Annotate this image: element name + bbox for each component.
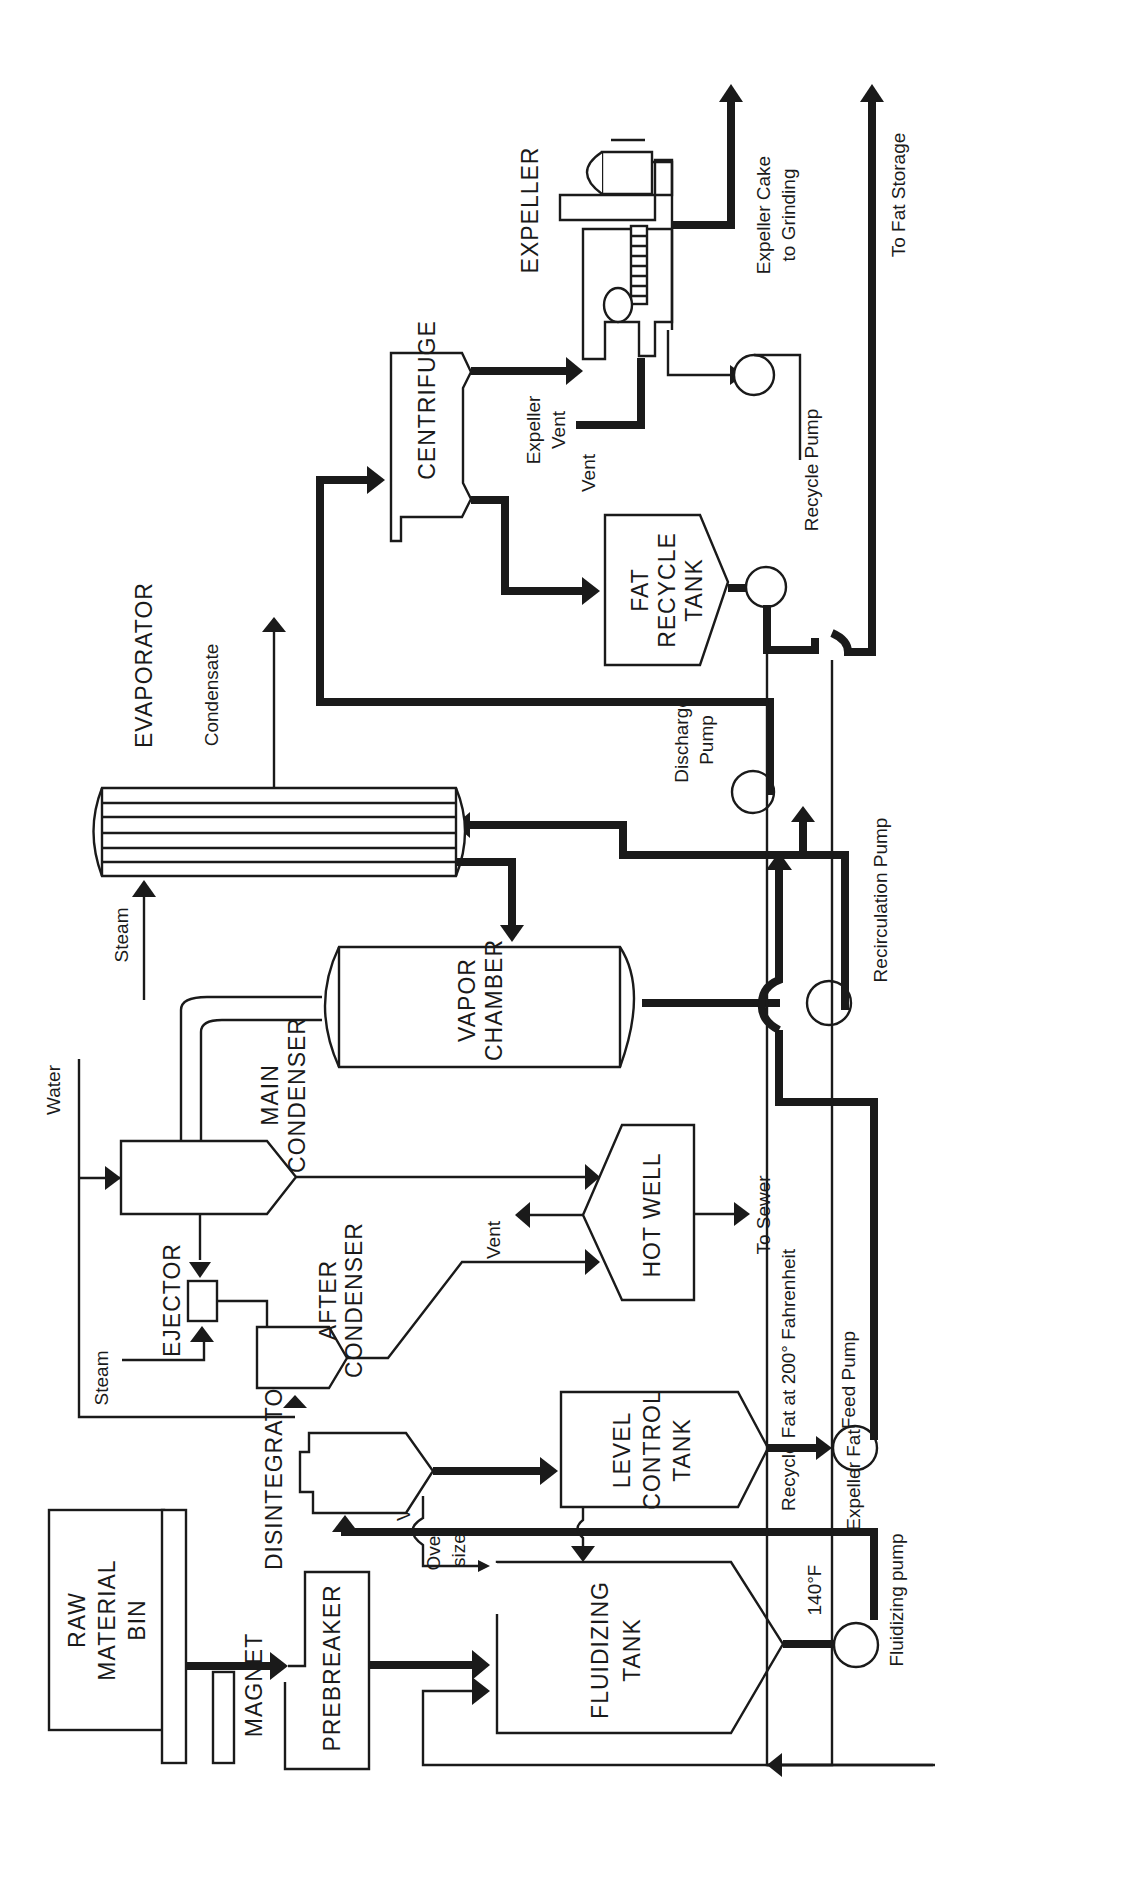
arrow-icon: [190, 1326, 214, 1342]
disintegrator: [300, 1433, 433, 1513]
fluidizing-tank-label-2: TANK: [619, 1618, 645, 1682]
discharge-pump-label-2: Pump: [696, 715, 717, 765]
arrow-icon: [105, 1166, 121, 1190]
expeller-vent-label-2: Vent: [548, 410, 569, 449]
ejector-label: EJECTOR: [159, 1243, 185, 1357]
expeller-fat-pump-icon: [734, 355, 774, 395]
magnet: MAGNET: [213, 1633, 267, 1763]
fluidizing-tank: FLUIDIZING TANK 140°F: [497, 1562, 825, 1733]
after-condenser: AFTER CONDENSER: [257, 1222, 367, 1388]
raw-material-bin: RAW MATERIAL BIN: [49, 1510, 186, 1763]
hot-well-label: HOT WELL: [639, 1152, 665, 1277]
fluidizing-tank-label-1: FLUIDIZING: [587, 1581, 613, 1719]
recirculation-pump-label: Recirculation Pump: [870, 818, 891, 983]
arrow-icon: [816, 1436, 832, 1460]
level-control-tank-label-2: CONTROL: [639, 1390, 665, 1509]
steam-label-evaporator: Steam: [111, 908, 132, 963]
recycle-pump-icon: [746, 567, 786, 607]
arrow-icon: [478, 1560, 490, 1572]
disintegrator-label: DISINTEGRATOR: [261, 1370, 287, 1570]
main-condenser-label-1: MAIN: [257, 1064, 283, 1126]
after-condenser-to-hot-well: [347, 1262, 596, 1358]
water-label: Water: [43, 1064, 64, 1115]
expeller-cake-label-2: to Grinding: [778, 169, 799, 262]
expeller-vent-label-1: Expeller: [523, 395, 544, 464]
oversize-label-2: size: [448, 1533, 469, 1567]
vapor-chamber-label-2: CHAMBER: [481, 939, 507, 1061]
expeller: EXPELLER: [517, 140, 672, 359]
prebreaker-label: PREBREAKER: [319, 1584, 345, 1751]
centrifuge-to-fat-recycle-tank: [471, 500, 582, 591]
fluidizing-pump-label: Fluidizing pump: [886, 1533, 907, 1666]
arrow-icon: [332, 1515, 358, 1532]
arrow-icon: [767, 1753, 782, 1777]
expeller-fat-to-pump-line: [668, 330, 733, 375]
expeller-vent-line: [576, 358, 641, 425]
condensate-label: Condensate: [201, 644, 222, 746]
recycle-pump-label: Recycle Pump: [801, 409, 822, 532]
arrow-icon: [472, 1677, 490, 1705]
expeller-label: EXPELLER: [517, 147, 543, 274]
fat-recycle-tank-label-2: RECYCLE: [654, 532, 680, 648]
arrow-icon: [515, 1202, 530, 1228]
level-control-tank-label-3: TANK: [669, 1418, 695, 1482]
feed-pump-label: Feed Pump: [838, 1331, 859, 1429]
main-condenser: MAIN CONDENSER: [121, 1017, 310, 1214]
arrow-icon: [734, 1202, 750, 1226]
centrifuge: CENTRIFUGE: [391, 320, 471, 541]
arrow-icon: [262, 617, 286, 632]
vent-label-fat-tank: Vent: [578, 453, 599, 492]
level-control-tank: LEVEL CONTROL TANK: [561, 1390, 768, 1509]
arrow-icon: [571, 1546, 595, 1562]
arrow-icon: [472, 1650, 490, 1680]
expeller-cake-line: [672, 100, 731, 225]
fluidizing-pump-icon: [834, 1623, 878, 1667]
to-fat-storage-line: [832, 100, 872, 652]
arrow-icon: [585, 1249, 600, 1275]
process-flow-diagram: RAW MATERIAL BIN MAGNET PREBREAKER DISIN…: [0, 0, 1132, 1891]
evaporator-to-vapor-chamber: [456, 862, 512, 925]
fat-recycle-tank-label-3: TANK: [681, 558, 707, 622]
arrow-icon: [132, 880, 156, 897]
arrow-icon: [582, 577, 600, 605]
arrow-icon: [189, 1262, 211, 1278]
to-sewer-label: To Sewer: [753, 1175, 774, 1255]
fat-recycle-tank-label-1: FAT: [627, 568, 653, 611]
arrow-icon: [860, 84, 884, 102]
expeller-fat-label: Expeller Fat: [843, 1429, 864, 1531]
centrifuge-label: CENTRIFUGE: [414, 320, 440, 480]
after-condenser-label-2: CONDENSER: [341, 1222, 367, 1378]
vapor-chamber-label-1: VAPOR: [454, 958, 480, 1042]
recycle-fat-line: [767, 652, 935, 1765]
arrow-icon: [367, 466, 385, 494]
evaporator-label: EVAPORATOR: [131, 582, 157, 748]
hot-well: HOT WELL: [583, 1125, 694, 1300]
raw-material-bin-label-2: MATERIAL: [94, 1559, 120, 1680]
arrow-icon: [540, 1457, 558, 1485]
arrow-icon: [566, 357, 583, 385]
raw-material-bin-label-3: BIN: [124, 1599, 150, 1640]
fluidizing-tank-temperature: 140°F: [804, 1565, 825, 1616]
fat-recycle-tank: FAT RECYCLE TANK: [605, 515, 728, 665]
steam-label-ejector: Steam: [91, 1351, 112, 1406]
recycle-pump-discharge: [767, 605, 815, 650]
level-control-tank-label-1: LEVEL: [609, 1412, 635, 1489]
to-fat-storage-label: To Fat Storage: [888, 133, 909, 258]
vapor-chamber: VAPOR CHAMBER: [325, 939, 634, 1067]
arrow-icon: [791, 806, 815, 822]
expeller-cake-label-1: Expeller Cake: [753, 156, 774, 274]
main-condenser-label-2: CONDENSER: [284, 1017, 310, 1173]
raw-material-bin-label-1: RAW: [64, 1592, 90, 1648]
arrow-icon: [719, 84, 743, 102]
discharge-pump-label-1: Discharge: [671, 697, 692, 783]
arrow-icon: [270, 1652, 288, 1680]
magnet-label: MAGNET: [241, 1633, 267, 1737]
vent-label-hot-well: Vent: [483, 1220, 504, 1259]
recycle-fat-label: Recycle Fat at 200° Fahrenheit: [778, 1248, 799, 1511]
recirculation-to-evaporator-line: [465, 825, 779, 855]
ejector-to-after-condenser: [218, 1301, 267, 1327]
after-condenser-label-1: AFTER: [315, 1260, 341, 1340]
prebreaker: PREBREAKER: [285, 1572, 369, 1769]
